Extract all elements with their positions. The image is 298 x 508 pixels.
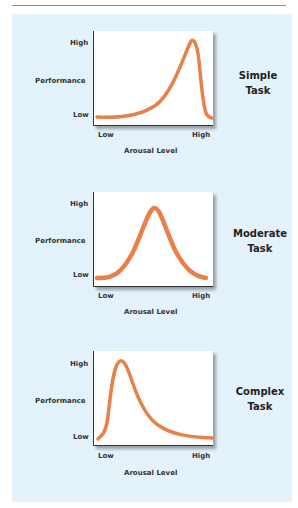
y-low-label: Low bbox=[73, 433, 89, 441]
plot-area bbox=[93, 31, 213, 126]
x-high-label: High bbox=[192, 452, 210, 460]
x-low-label: Low bbox=[98, 131, 114, 139]
x-axis-label: Arousal Level bbox=[124, 147, 177, 155]
x-high-label: High bbox=[192, 131, 210, 139]
task-title-line1: Moderate bbox=[224, 226, 296, 241]
task-title-line2: Task bbox=[226, 399, 294, 414]
y-axis-label: Performance bbox=[35, 397, 86, 405]
y-low-label: Low bbox=[73, 271, 89, 279]
task-title: Moderate Task bbox=[224, 226, 296, 256]
task-title: Simple Task bbox=[228, 68, 288, 98]
x-low-label: Low bbox=[98, 452, 114, 460]
x-axis-label: Arousal Level bbox=[124, 469, 177, 477]
simple-task-curve bbox=[94, 31, 213, 125]
y-axis-label: Performance bbox=[35, 77, 86, 85]
task-title-line2: Task bbox=[228, 83, 288, 98]
x-axis-label: Arousal Level bbox=[124, 308, 177, 316]
task-title: Complex Task bbox=[226, 384, 294, 414]
task-title-line2: Task bbox=[224, 241, 296, 256]
moderate-task-curve bbox=[94, 192, 213, 286]
task-title-line1: Complex bbox=[226, 384, 294, 399]
plot-area bbox=[93, 351, 213, 446]
y-high-label: High bbox=[70, 200, 88, 208]
chart-moderate-task: High Performance Low Low High Arousal Le… bbox=[0, 160, 298, 320]
y-high-label: High bbox=[70, 39, 88, 47]
plot-area bbox=[93, 192, 213, 287]
chart-complex-task: High Performance Low Low High Arousal Le… bbox=[0, 320, 298, 480]
y-high-label: High bbox=[70, 360, 88, 368]
chart-simple-task: High Performance Low Low High Arousal Le… bbox=[0, 0, 298, 160]
y-low-label: Low bbox=[73, 111, 89, 119]
y-axis-label: Performance bbox=[35, 237, 86, 245]
task-title-line1: Simple bbox=[228, 68, 288, 83]
x-high-label: High bbox=[192, 292, 210, 300]
complex-task-curve bbox=[94, 351, 213, 445]
x-low-label: Low bbox=[98, 292, 114, 300]
